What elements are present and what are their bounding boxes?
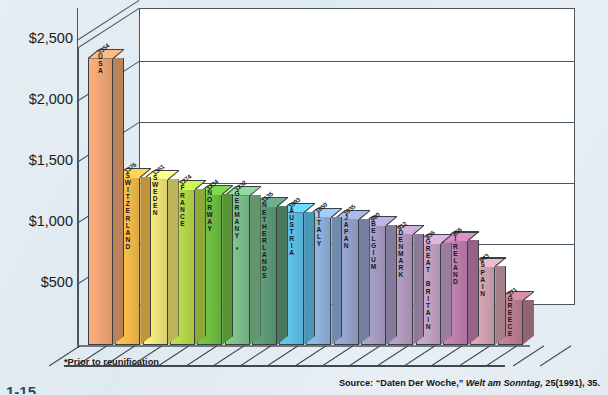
gridline xyxy=(139,61,575,62)
bar-side-face xyxy=(386,225,397,345)
floor-hatch-line xyxy=(267,345,299,366)
source-prefix: Source: xyxy=(339,378,373,388)
bar-side-face xyxy=(250,195,261,345)
bar-side-face xyxy=(113,58,124,345)
source-citation: Source: “Daten Der Woche,” Welt am Sonnt… xyxy=(339,378,600,388)
bar-side-face xyxy=(277,206,288,345)
footnote: *Prior to reunification xyxy=(64,357,159,367)
bar-side-face xyxy=(195,189,206,345)
bar-side-face xyxy=(413,234,424,345)
floor-hatch-line xyxy=(431,345,463,366)
gridline xyxy=(139,122,575,123)
floor-hatch-line xyxy=(513,345,545,366)
bar-side-face xyxy=(331,217,342,345)
bar-side-face xyxy=(304,212,315,345)
source-title: “Daten Der Woche,” xyxy=(376,378,464,388)
y-axis-line xyxy=(77,48,79,348)
bar-side-face xyxy=(441,243,452,345)
y-axis-tick-label: $2,500 xyxy=(29,30,73,46)
floor-hatch-line xyxy=(158,345,190,366)
floor-hatch-line xyxy=(294,345,326,366)
floor-hatch-line xyxy=(240,345,272,366)
source-citation-detail: 25(1991), 35. xyxy=(545,378,600,388)
bar-side-face xyxy=(359,219,370,345)
bar-side-face xyxy=(468,240,479,345)
bar-side-face xyxy=(222,194,233,345)
bar-side-face xyxy=(140,177,151,345)
source-journal: Welt am Sonntag, xyxy=(466,378,543,388)
bar-side-face xyxy=(168,179,179,345)
bar-category-label: USA xyxy=(88,53,113,74)
floor-hatch-line xyxy=(404,345,436,366)
y-axis-tick-label: $1,500 xyxy=(29,152,73,168)
bar-side-face xyxy=(495,266,506,345)
y-axis-tick-label: $2,000 xyxy=(29,91,73,107)
floor-hatch-line xyxy=(322,345,354,366)
floor-hatch-line xyxy=(485,345,517,366)
floor-hatch-line xyxy=(349,345,381,366)
floor-hatch-line xyxy=(212,345,244,366)
bar-usa[interactable]: 2354USA xyxy=(88,49,124,345)
floor-hatch-line xyxy=(458,345,490,366)
bar-front-face xyxy=(88,58,113,345)
y-axis-tick-label: $1,000 xyxy=(29,213,73,229)
y-axis-tick-label: $500 xyxy=(41,274,73,290)
bar-chart: $500$1,000$1,500$2,000$2,500 2354USA1376… xyxy=(0,0,608,395)
floor-hatch-line xyxy=(376,345,408,366)
bar-side-face xyxy=(523,300,534,345)
floor-hatch-line xyxy=(540,345,572,366)
figure-number: 1-15 xyxy=(6,383,36,394)
floor-hatch-line xyxy=(185,345,217,366)
